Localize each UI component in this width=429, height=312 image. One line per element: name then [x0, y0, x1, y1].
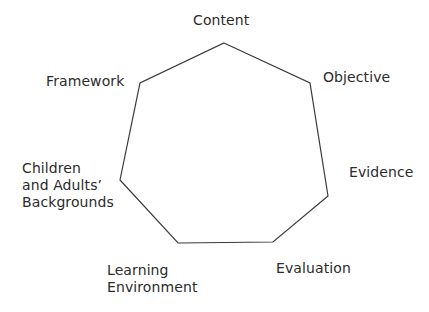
label-content: Content [193, 12, 249, 29]
label-evaluation: Evaluation [276, 260, 351, 277]
label-objective: Objective [323, 69, 390, 86]
label-framework: Framework [46, 73, 124, 90]
heptagon-shape [0, 0, 429, 312]
label-backgrounds-line1: Children [22, 160, 114, 177]
label-learning-environment: Learning Environment [107, 262, 198, 296]
label-backgrounds-line3: Backgrounds [22, 194, 114, 211]
label-learning-line1: Learning [107, 262, 198, 279]
label-evidence: Evidence [349, 164, 414, 181]
heptagon-diagram: Content Objective Evidence Evaluation Le… [0, 0, 429, 312]
label-backgrounds: Children and Adults’ Backgrounds [22, 160, 114, 211]
label-learning-line2: Environment [107, 279, 198, 296]
label-backgrounds-line2: and Adults’ [22, 177, 114, 194]
